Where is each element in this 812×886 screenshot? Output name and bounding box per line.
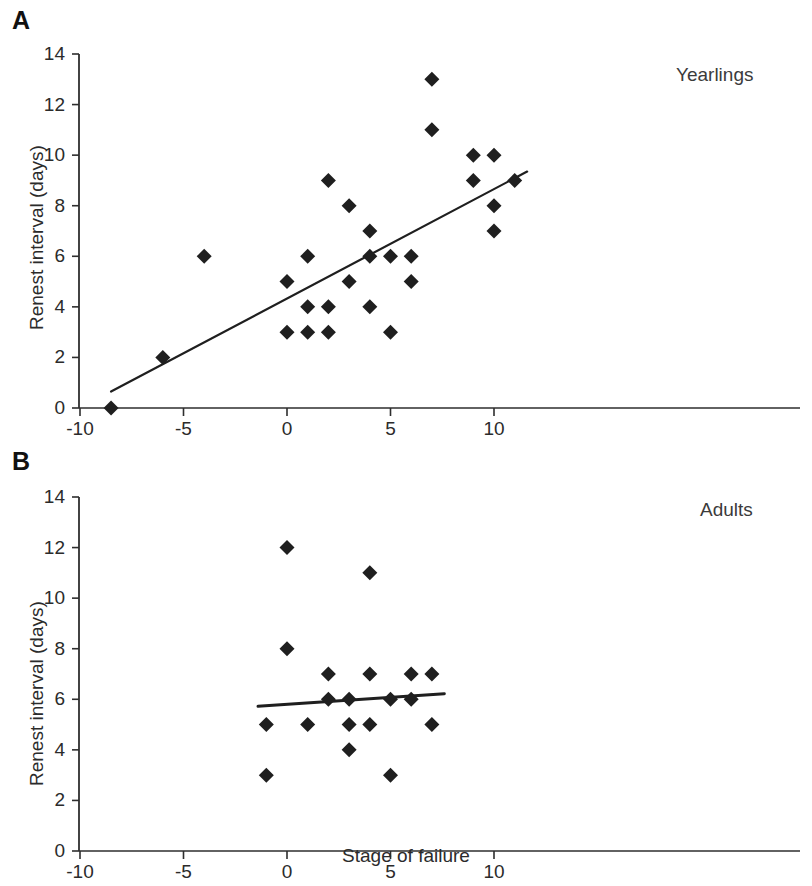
data-point-marker	[342, 198, 357, 213]
data-point-marker	[280, 540, 295, 555]
panel-a-plot-area: 02468101214-10-50510	[0, 0, 812, 443]
data-point-marker	[404, 667, 419, 682]
x-tick-label: -5	[175, 418, 192, 439]
data-point-marker	[280, 641, 295, 656]
data-point-marker	[487, 148, 502, 163]
data-point-marker	[259, 768, 274, 783]
data-point-marker	[342, 274, 357, 289]
data-point-marker	[321, 325, 336, 340]
data-point-marker	[321, 667, 336, 682]
data-point-marker	[487, 224, 502, 239]
regression-line	[111, 172, 527, 392]
data-point-marker	[342, 717, 357, 732]
data-point-marker	[424, 72, 439, 87]
data-point-marker	[321, 299, 336, 314]
panel-a: A Yearlings Renest interval (days) 02468…	[0, 0, 812, 443]
data-point-marker	[155, 350, 170, 365]
data-point-marker	[197, 249, 212, 264]
data-point-marker	[466, 173, 481, 188]
data-point-marker	[404, 249, 419, 264]
data-point-marker	[424, 122, 439, 137]
y-tick-label: 10	[44, 144, 65, 165]
data-point-marker	[383, 325, 398, 340]
data-point-marker	[424, 667, 439, 682]
data-point-marker	[280, 325, 295, 340]
data-point-marker	[104, 401, 119, 416]
data-point-marker	[424, 717, 439, 732]
x-tick-label: 0	[282, 418, 293, 439]
x-tick-label: 5	[385, 418, 396, 439]
data-point-marker	[321, 692, 336, 707]
y-tick-label: 4	[54, 739, 65, 760]
data-point-marker	[342, 692, 357, 707]
data-point-marker	[300, 717, 315, 732]
y-tick-label: 6	[54, 245, 65, 266]
data-point-marker	[487, 198, 502, 213]
y-tick-label: 6	[54, 688, 65, 709]
x-axis-title: Stage of failure	[0, 845, 812, 867]
figure-root: A Yearlings Renest interval (days) 02468…	[0, 0, 812, 886]
y-tick-label: 8	[54, 195, 65, 216]
y-tick-label: 10	[44, 587, 65, 608]
x-tick-label: -10	[66, 418, 93, 439]
data-point-marker	[362, 565, 377, 580]
data-point-marker	[383, 768, 398, 783]
data-point-marker	[362, 299, 377, 314]
data-point-marker	[342, 742, 357, 757]
data-point-marker	[300, 325, 315, 340]
y-tick-label: 14	[44, 43, 66, 64]
data-point-marker	[362, 224, 377, 239]
y-tick-label: 0	[54, 397, 65, 418]
data-point-marker	[383, 692, 398, 707]
y-tick-label: 12	[44, 537, 65, 558]
data-point-marker	[404, 692, 419, 707]
x-tick-label: 10	[483, 418, 504, 439]
data-point-marker	[321, 173, 336, 188]
panel-b-plot-area: 02468101214-10-50510	[0, 443, 812, 886]
data-point-marker	[300, 249, 315, 264]
data-point-marker	[259, 717, 274, 732]
y-tick-label: 2	[54, 789, 65, 810]
y-tick-label: 14	[44, 486, 66, 507]
data-point-marker	[362, 717, 377, 732]
data-point-marker	[280, 274, 295, 289]
panel-b: B Adults Renest interval (days) 02468101…	[0, 443, 812, 886]
y-tick-label: 8	[54, 638, 65, 659]
data-point-marker	[300, 299, 315, 314]
y-tick-label: 2	[54, 346, 65, 367]
data-point-marker	[362, 667, 377, 682]
y-tick-label: 12	[44, 94, 65, 115]
y-tick-label: 4	[54, 296, 65, 317]
data-point-marker	[404, 274, 419, 289]
data-point-marker	[466, 148, 481, 163]
data-point-marker	[383, 249, 398, 264]
